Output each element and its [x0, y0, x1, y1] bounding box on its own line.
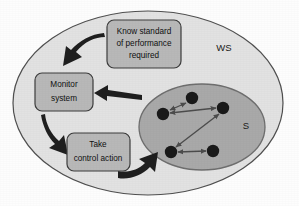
control-loop-diagram: Know standard of performance required Mo… — [0, 0, 299, 206]
system-node-top — [186, 92, 198, 104]
diagram-canvas: Know standard of performance required Mo… — [0, 0, 299, 206]
system-label: S — [243, 120, 249, 131]
take-control-action-box-shape — [67, 133, 130, 171]
system-node-bottom-right — [207, 145, 219, 157]
monitor-system-line-1: Monitor — [50, 80, 78, 89]
know-standard-line-3: required — [129, 51, 159, 60]
know-standard-line-1: Know standard — [117, 27, 172, 36]
system-node-bottom-left — [165, 146, 177, 158]
box-monitor-system[interactable]: Monitor system — [35, 73, 93, 111]
system-node-right — [217, 102, 229, 114]
take-control-action-line-1: Take — [89, 140, 107, 149]
monitor-system-line-2: system — [51, 94, 77, 103]
work-system-label: WS — [216, 42, 231, 53]
monitor-system-box-shape — [35, 73, 93, 111]
box-know-standard[interactable]: Know standard of performance required — [107, 20, 181, 68]
know-standard-line-2: of performance — [116, 39, 172, 48]
take-control-action-line-2: control action — [74, 154, 123, 163]
system-node-left — [157, 108, 169, 120]
box-take-control-action[interactable]: Take control action — [67, 133, 130, 171]
